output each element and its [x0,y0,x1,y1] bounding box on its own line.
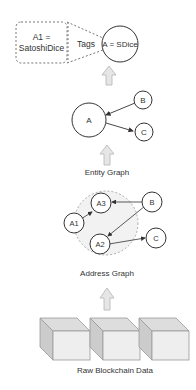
tag-box-line2: SatoshiDice [19,43,65,53]
address-graph-label: Address Graph [80,269,134,278]
svg-text:B: B [149,198,154,207]
raw-data-label: Raw Blockchain Data [77,366,154,375]
up-arrow-icon [100,288,114,310]
pipeline-diagram: A1 = SatoshiDice Tags A = SDice A B C En… [0,0,196,390]
block-icon [90,318,140,360]
svg-text:A2: A2 [95,240,104,249]
tags-label: Tags [77,39,95,49]
svg-text:B: B [140,96,145,105]
address-graph: A3 A1 A2 B C [64,191,166,255]
svg-text:A: A [86,116,92,125]
block-icon [139,318,189,360]
svg-text:A1: A1 [69,219,78,228]
entity-tag-node: A = SDice [102,26,138,62]
entity-graph: A B C [72,91,153,141]
svg-text:C: C [141,128,147,137]
blockchain-blocks [40,318,189,360]
up-arrow-icon [102,66,116,85]
tag-box-line1: A1 = [33,32,51,42]
entity-tag-label: A = SDice [102,40,138,49]
entity-graph-label: Entity Graph [85,168,129,177]
block-icon [40,318,90,360]
svg-text:A3: A3 [96,199,105,208]
up-arrow-icon [100,145,114,165]
tags-connector: Tags [67,22,103,63]
svg-text:C: C [153,234,159,243]
tag-box: A1 = SatoshiDice [16,22,67,63]
